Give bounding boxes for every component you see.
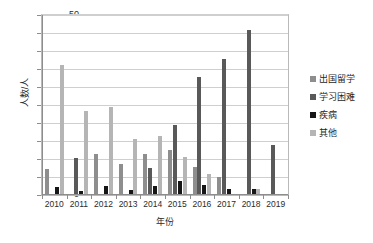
- bar: [143, 154, 147, 194]
- legend-label: 疾病: [319, 110, 337, 120]
- x-tick-label: 2012: [91, 199, 116, 209]
- legend-item[interactable]: 学习困难: [310, 92, 373, 102]
- bar-group: [214, 14, 239, 194]
- chart-legend: 出国留学学习困难疾病其他: [310, 74, 373, 146]
- x-tick-label: 2014: [140, 199, 165, 209]
- legend-swatch-icon: [310, 130, 316, 136]
- bar: [207, 174, 211, 194]
- bar: [94, 154, 98, 194]
- y-axis-title: 人数/人: [18, 63, 31, 123]
- bar: [197, 77, 201, 194]
- legend-item[interactable]: 出国留学: [310, 74, 373, 84]
- bar-group: [239, 14, 264, 194]
- x-tick-label: 2013: [116, 199, 141, 209]
- plot-area: [41, 14, 289, 196]
- legend-label: 其他: [319, 128, 337, 138]
- x-axis-line: [42, 194, 288, 195]
- x-tick-label: 2016: [190, 199, 215, 209]
- bar: [158, 136, 162, 194]
- bar: [168, 150, 172, 194]
- bar: [222, 59, 226, 194]
- bar: [183, 157, 187, 194]
- bar-group: [42, 14, 67, 194]
- bar: [55, 187, 59, 194]
- bar: [109, 107, 113, 194]
- bar: [153, 186, 157, 194]
- bar-group: [165, 14, 190, 194]
- x-tick-label: 2019: [263, 199, 288, 209]
- legend-swatch-icon: [310, 112, 316, 118]
- bar: [119, 164, 123, 194]
- x-tick-label: 2011: [67, 199, 92, 209]
- bar: [202, 185, 206, 194]
- bar-group: [67, 14, 92, 194]
- legend-swatch-icon: [310, 94, 316, 100]
- legend-item[interactable]: 疾病: [310, 110, 373, 120]
- legend-label: 学习困难: [319, 92, 355, 102]
- x-tick-label: 2010: [42, 199, 67, 209]
- bar: [148, 168, 152, 194]
- bar-group: [116, 14, 141, 194]
- x-tick-mark: [288, 195, 289, 199]
- bar: [45, 169, 49, 194]
- bar: [247, 30, 251, 194]
- bar-group: [190, 14, 215, 194]
- bar: [178, 181, 182, 194]
- x-tick-label: 2017: [214, 199, 239, 209]
- legend-label: 出国留学: [319, 74, 355, 84]
- legend-item[interactable]: 其他: [310, 128, 373, 138]
- bar-chart: 人数/人 50454035302520151050 20102011201220…: [0, 0, 373, 243]
- bar: [104, 186, 108, 194]
- bar: [60, 65, 64, 194]
- bar: [173, 125, 177, 194]
- bar: [271, 145, 275, 194]
- bar: [84, 111, 88, 194]
- footer-smudge: [0, 236, 373, 243]
- x-tick-label: 2015: [165, 199, 190, 209]
- y-axis-line: [42, 15, 43, 195]
- x-axis-title: 年份: [41, 215, 289, 228]
- bar-group: [140, 14, 165, 194]
- bar: [193, 167, 197, 194]
- bar-group: [263, 14, 288, 194]
- bar: [74, 158, 78, 194]
- x-tick-label: 2018: [239, 199, 264, 209]
- bar: [133, 139, 137, 194]
- bar-group: [91, 14, 116, 194]
- legend-swatch-icon: [310, 76, 316, 82]
- bar: [217, 177, 221, 194]
